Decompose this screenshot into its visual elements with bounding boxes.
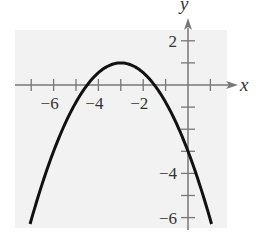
y-tick-label: −4 — [159, 164, 178, 183]
x-tick-label: −2 — [130, 94, 148, 113]
parabola-graph: −6−4−22−4−6 x y — [0, 0, 262, 243]
y-tick-label: 2 — [169, 32, 178, 51]
y-tick-label: −6 — [159, 209, 177, 228]
x-axis-label: x — [239, 74, 249, 95]
x-tick-label: −6 — [41, 94, 59, 113]
x-tick-label: −4 — [85, 94, 104, 113]
y-axis-label: y — [178, 0, 189, 14]
plot-background — [15, 30, 227, 228]
